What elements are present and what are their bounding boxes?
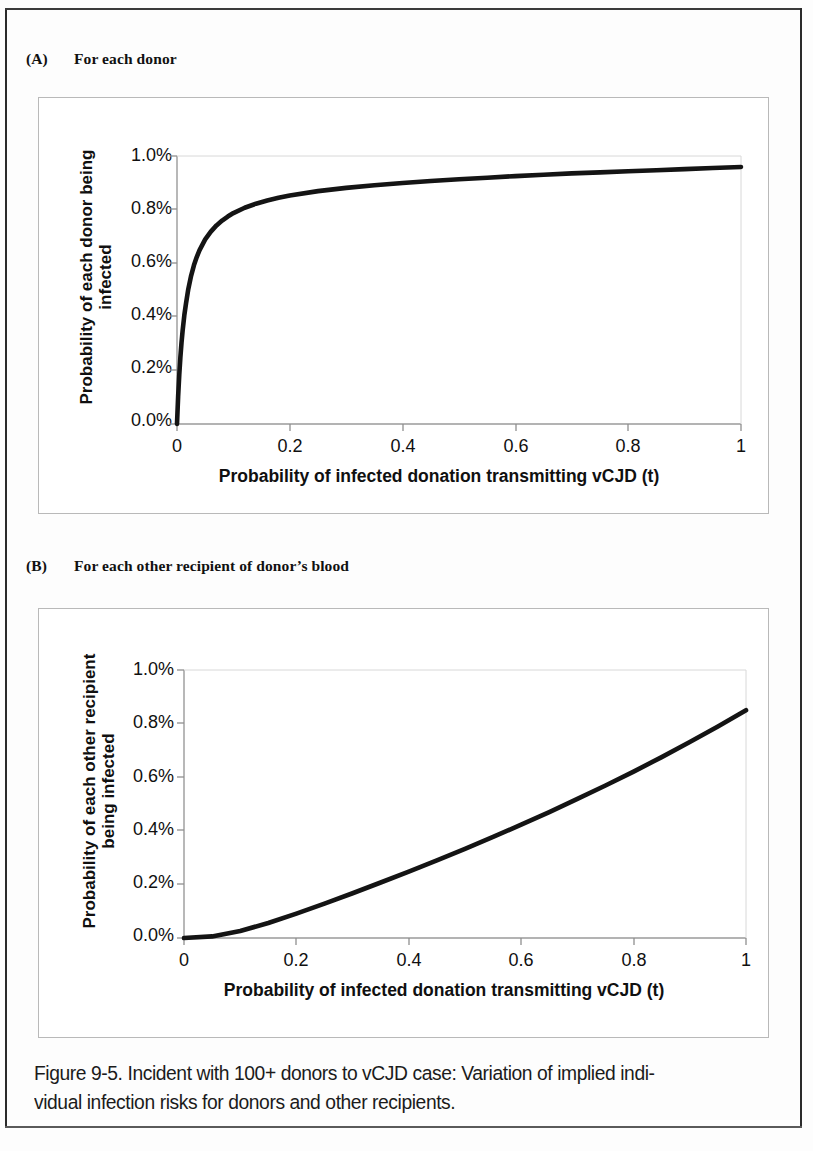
chart-a-xtick-1: 0.2 — [260, 436, 320, 457]
chart-a-xtick-3: 0.6 — [486, 436, 546, 457]
figure-caption: Figure 9-5. Incident with 100+ donors to… — [34, 1058, 734, 1116]
chart-b-xtick-5: 1 — [716, 950, 776, 971]
panel-b-heading: (B)For each other recipient of donor’s b… — [26, 557, 349, 575]
chart-b-frame: Probability of each other recipient bein… — [38, 608, 769, 1038]
chart-b-plot-area: Probability of each other recipient bein… — [39, 609, 768, 1037]
figure-caption-line-1: Figure 9-5. Incident with 100+ donors to… — [34, 1058, 734, 1087]
chart-a-xtick-4: 0.8 — [598, 436, 658, 457]
chart-a-x-axis-title: Probability of infected donation transmi… — [109, 466, 769, 487]
chart-a-xtick-5: 1 — [711, 436, 771, 457]
chart-b-xtick-3: 0.6 — [491, 950, 551, 971]
chart-b-svg — [39, 609, 770, 1039]
chart-b-xtick-2: 0.4 — [379, 950, 439, 971]
panel-a-heading: (A)For each donor — [26, 50, 177, 68]
chart-a-plot-area: Probability of each donor being infected… — [39, 98, 768, 513]
scanned-page: (A)For each donor Probability of each do… — [0, 0, 813, 1151]
figure-caption-line-2: vidual infection risks for donors and ot… — [34, 1087, 734, 1116]
chart-a-xtick-0: 0 — [147, 436, 207, 457]
page-border-bottom — [5, 1126, 802, 1128]
chart-b-xtick-1: 0.2 — [266, 950, 326, 971]
chart-b-xtick-4: 0.8 — [604, 950, 664, 971]
panel-b-tag: (B) — [26, 557, 74, 575]
chart-a-frame: Probability of each donor being infected… — [38, 97, 769, 514]
page-border-right — [800, 8, 802, 1128]
chart-b-series-line — [184, 710, 746, 938]
page-border-left — [5, 8, 7, 1128]
panel-b-title: For each other recipient of donor’s bloo… — [74, 557, 349, 574]
chart-a-series-line — [177, 167, 741, 424]
page-border-top — [5, 8, 802, 10]
chart-b-xtick-0: 0 — [154, 950, 214, 971]
panel-a-title: For each donor — [74, 50, 177, 67]
chart-a-xtick-2: 0.4 — [373, 436, 433, 457]
panel-a-tag: (A) — [26, 50, 74, 68]
chart-b-x-axis-title: Probability of infected donation transmi… — [114, 980, 774, 1001]
